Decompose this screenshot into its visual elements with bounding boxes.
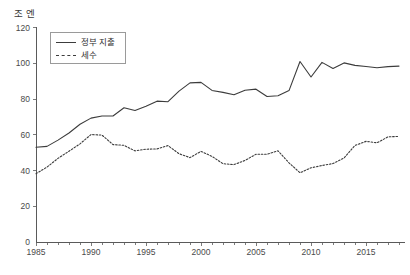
legend-swatch-dashed-icon <box>56 55 76 56</box>
y-tick-label: 100 <box>16 58 30 68</box>
x-tick-label: 2000 <box>192 247 211 257</box>
y-tick-label: 20 <box>21 201 31 211</box>
legend-label-spending: 정부 지출 <box>81 37 115 47</box>
legend-item-revenue: 세수 <box>56 50 97 60</box>
x-tick-label: 2005 <box>247 247 266 257</box>
y-tick-label: 80 <box>21 94 31 104</box>
x-tick-label: 1985 <box>27 247 46 257</box>
x-tick-label: 1995 <box>137 247 156 257</box>
legend-label-revenue: 세수 <box>81 50 97 60</box>
y-tick-label: 40 <box>21 166 31 176</box>
x-tick-label: 1990 <box>82 247 101 257</box>
legend-swatch-solid-icon <box>56 42 76 43</box>
legend-item-spending: 정부 지출 <box>56 37 115 47</box>
x-tick-label: 2010 <box>302 247 321 257</box>
y-tick-label: 0 <box>25 237 30 247</box>
chart-legend: 정부 지출 세수 <box>50 32 126 64</box>
chart-container: 조 엔 020406080100120198519901995200020052… <box>0 0 410 275</box>
y-tick-label: 120 <box>16 23 30 33</box>
x-tick-label: 2015 <box>357 247 376 257</box>
data-series-group <box>36 61 399 173</box>
series-line-revenue <box>36 135 399 174</box>
y-tick-label: 60 <box>21 130 31 140</box>
